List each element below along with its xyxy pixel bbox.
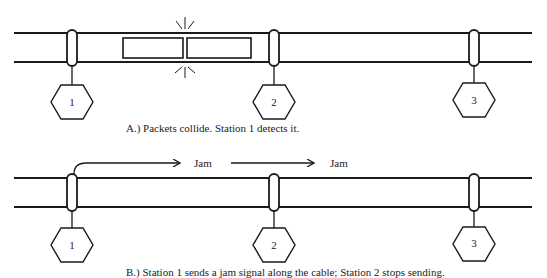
station-number: 3 <box>471 94 477 106</box>
tap-connector <box>67 30 77 66</box>
tap-connector <box>269 174 279 211</box>
station-2-b: 2 <box>253 174 295 262</box>
station-number: 2 <box>271 239 277 251</box>
station-3-b: 3 <box>453 174 495 261</box>
caption-a: A.) Packets collide. Station 1 detects i… <box>126 122 299 134</box>
station-1-a: 1 <box>51 30 93 119</box>
jam-arrow-1 <box>74 163 180 174</box>
panel-b: 1 2 3 <box>14 163 532 262</box>
station-2-a: 2 <box>253 30 295 119</box>
station-number: 2 <box>271 96 277 108</box>
caption-b: B.) Station 1 sends a jam signal along t… <box>126 266 445 278</box>
station-3-a: 3 <box>453 30 495 117</box>
packet-left <box>123 38 183 58</box>
station-1-b: 1 <box>51 174 93 262</box>
jam-label-1: Jam <box>194 157 212 169</box>
tap-connector <box>67 174 77 211</box>
packet-right <box>187 38 251 58</box>
station-number: 1 <box>69 96 75 108</box>
station-number: 3 <box>471 237 477 249</box>
tap-connector <box>269 30 279 66</box>
jam-label-2: Jam <box>330 157 348 169</box>
tap-connector <box>469 174 479 211</box>
tap-connector <box>469 30 479 66</box>
station-number: 1 <box>69 239 75 251</box>
panel-a: 1 2 3 <box>14 17 532 119</box>
